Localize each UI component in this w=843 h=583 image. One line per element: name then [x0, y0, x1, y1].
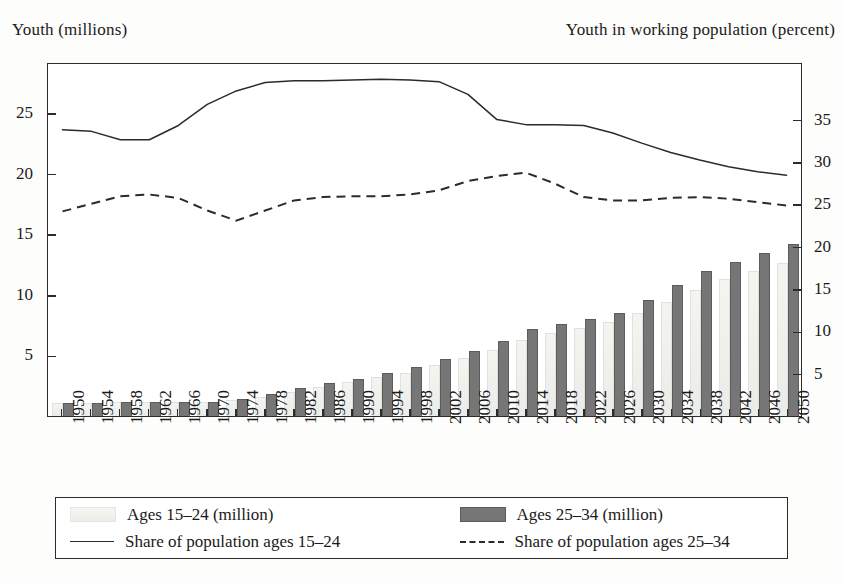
y2-tick-label: 5 [814, 364, 823, 384]
x-tick [206, 409, 208, 417]
y-tick-label: 5 [0, 345, 33, 365]
x-tick-label: 2006 [475, 390, 495, 424]
y2-tick-label: 30 [814, 152, 831, 172]
x-tick-label: 1954 [98, 390, 118, 424]
x-tick-label: 1974 [243, 390, 263, 424]
right-axis-title: Youth in working population (percent) [566, 20, 835, 40]
y2-tick [793, 374, 802, 376]
x-tick-label: 2042 [736, 390, 756, 424]
x-tick [612, 409, 614, 417]
y2-tick-label: 10 [814, 321, 831, 341]
legend-item: Share of population ages 25–34 [422, 532, 788, 552]
y2-tick-label: 15 [814, 279, 831, 299]
x-tick [293, 409, 295, 417]
x-tick-label: 1962 [156, 390, 176, 424]
lines-layer [48, 64, 801, 416]
x-tick [467, 409, 469, 417]
y2-tick-label: 25 [814, 194, 831, 214]
light-swatch-icon [70, 507, 116, 522]
y-tick-label: 15 [0, 224, 33, 244]
x-tick [148, 409, 150, 417]
plot-inner [48, 64, 801, 416]
x-tick-label: 2014 [533, 390, 553, 424]
x-tick-label: 1986 [330, 390, 350, 424]
x-tick [554, 409, 556, 417]
legend-item: Share of population ages 15–24 [56, 532, 422, 552]
x-tick-label: 1970 [214, 390, 234, 424]
x-tick-label: 1994 [388, 390, 408, 424]
x-tick-label: 2010 [504, 390, 524, 424]
legend-label: Ages 15–24 (million) [127, 505, 273, 525]
y-tick-label: 25 [0, 103, 33, 123]
x-tick-label: 1978 [272, 390, 292, 424]
line-share-15-24 [62, 79, 786, 175]
x-tick [119, 409, 121, 417]
x-tick [787, 409, 789, 417]
x-tick [700, 409, 702, 417]
x-tick [641, 409, 643, 417]
x-tick-label: 2046 [765, 390, 785, 424]
legend-label: Share of population ages 25–34 [515, 532, 730, 552]
x-tick [264, 409, 266, 417]
x-tick-label: 1958 [127, 390, 147, 424]
y2-tick [793, 247, 802, 249]
x-tick-label: 2038 [707, 390, 727, 424]
y2-tick [793, 289, 802, 291]
legend-label: Ages 25–34 (million) [517, 505, 663, 525]
y2-tick-label: 35 [814, 110, 831, 130]
x-tick [322, 409, 324, 417]
x-tick [235, 409, 237, 417]
dashed-line-icon [460, 535, 504, 548]
y2-tick-label: 20 [814, 237, 831, 257]
dark-swatch-icon [460, 507, 506, 522]
x-tick [90, 409, 92, 417]
x-tick-label: 1966 [185, 390, 205, 424]
x-tick [671, 409, 673, 417]
x-tick-label: 2026 [620, 390, 640, 424]
x-tick [496, 409, 498, 417]
x-tick-label: 2022 [591, 390, 611, 424]
x-tick [729, 409, 731, 417]
legend-label: Share of population ages 15–24 [125, 532, 340, 552]
y-tick-label: 20 [0, 164, 33, 184]
y2-tick [793, 162, 802, 164]
plot-area [47, 63, 802, 417]
line-share-25-34 [62, 173, 786, 221]
x-tick [351, 409, 353, 417]
x-tick-label: 2002 [446, 390, 466, 424]
x-tick-label: 1982 [301, 390, 321, 424]
chart-root: Youth (millions) Youth in working popula… [0, 0, 843, 583]
x-tick [380, 409, 382, 417]
x-tick [758, 409, 760, 417]
x-tick-label: 2030 [649, 390, 669, 424]
y-tick [47, 113, 56, 115]
x-tick-label: 1998 [417, 390, 437, 424]
x-tick [438, 409, 440, 417]
x-tick-label: 1950 [69, 390, 89, 424]
y2-tick [793, 204, 802, 206]
solid-line-icon [70, 535, 114, 548]
y-tick [47, 295, 56, 297]
x-tick [583, 409, 585, 417]
x-tick [61, 409, 63, 417]
x-tick-label: 2050 [794, 390, 814, 424]
legend-item: Ages 25–34 (million) [422, 505, 788, 525]
chart-legend: Ages 15–24 (million)Ages 25–34 (million)… [55, 497, 788, 559]
x-tick [525, 409, 527, 417]
y-tick [47, 174, 56, 176]
x-tick [177, 409, 179, 417]
y-tick [47, 234, 56, 236]
x-tick-label: 2018 [562, 390, 582, 424]
y-tick-label: 10 [0, 285, 33, 305]
y2-tick [793, 120, 802, 122]
legend-item: Ages 15–24 (million) [56, 505, 422, 525]
left-axis-title: Youth (millions) [12, 20, 127, 40]
y2-tick [793, 332, 802, 334]
x-tick-label: 2034 [678, 390, 698, 424]
y-tick [47, 356, 56, 358]
x-tick-label: 1990 [359, 390, 379, 424]
x-tick [409, 409, 411, 417]
